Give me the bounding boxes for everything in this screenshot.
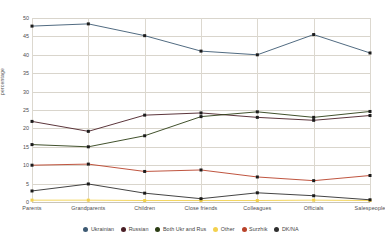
series-line xyxy=(32,164,370,181)
series-ukrainian xyxy=(31,22,372,56)
data-point xyxy=(143,34,146,37)
data-point xyxy=(256,116,259,119)
x-tick-label: Children xyxy=(134,205,155,211)
data-point xyxy=(312,199,315,202)
grid-line xyxy=(32,202,370,203)
legend-item[interactable]: Surzhik xyxy=(242,226,268,232)
data-point xyxy=(369,114,372,117)
data-point xyxy=(200,50,203,53)
data-point xyxy=(87,163,90,166)
data-point xyxy=(143,199,146,202)
y-tick-label: 15 xyxy=(23,144,29,150)
legend-item[interactable]: DK/NA xyxy=(274,226,298,232)
data-point xyxy=(256,53,259,56)
data-point xyxy=(200,168,203,171)
x-tick-label: Close friends xyxy=(185,205,218,211)
data-point xyxy=(312,119,315,122)
data-point xyxy=(31,25,34,28)
data-point xyxy=(369,174,372,177)
series-russian xyxy=(31,111,372,132)
x-tick-label: Grandparents xyxy=(71,205,105,211)
data-point xyxy=(256,110,259,113)
legend-label: Other xyxy=(221,226,235,232)
data-point xyxy=(87,199,90,202)
data-point xyxy=(369,51,372,54)
chart-legend: UkrainianRussianBoth Ukr and RusOtherSur… xyxy=(0,226,382,232)
data-point xyxy=(369,110,372,113)
data-point xyxy=(369,198,372,201)
legend-label: Surzhik xyxy=(249,226,267,232)
y-tick-label: 45 xyxy=(23,33,29,39)
data-point xyxy=(256,191,259,194)
y-tick-label: 35 xyxy=(23,70,29,76)
y-tick-label: 30 xyxy=(23,89,29,95)
data-point xyxy=(31,120,34,123)
series-both-ukr-and-rus xyxy=(31,110,372,148)
y-tick-label: 5 xyxy=(26,181,29,187)
y-tick-label: 40 xyxy=(23,52,29,58)
legend-item[interactable]: Russian xyxy=(121,226,148,232)
legend-item[interactable]: Other xyxy=(213,226,234,232)
data-point xyxy=(143,192,146,195)
legend-swatch-icon xyxy=(242,227,247,232)
y-tick-label: 50 xyxy=(23,15,29,21)
y-tick-label: 10 xyxy=(23,162,29,168)
legend-label: Russian xyxy=(129,226,149,232)
legend-item[interactable]: Both Ukr and Rus xyxy=(155,226,206,232)
x-tick-label: Parents xyxy=(22,205,41,211)
x-tick-label: Officials xyxy=(304,205,324,211)
legend-swatch-icon xyxy=(121,227,126,232)
y-tick-label: 20 xyxy=(23,125,29,131)
legend-swatch-icon xyxy=(213,227,218,232)
data-point xyxy=(87,145,90,148)
legend-label: Ukrainian xyxy=(91,226,114,232)
data-point xyxy=(256,199,259,202)
data-point xyxy=(200,115,203,118)
data-point xyxy=(31,199,34,202)
legend-swatch-icon xyxy=(83,227,88,232)
data-point xyxy=(31,189,34,192)
data-point xyxy=(87,130,90,133)
data-point xyxy=(31,143,34,146)
data-point xyxy=(87,182,90,185)
data-point xyxy=(87,22,90,25)
y-tick-label: 25 xyxy=(23,107,29,113)
data-point xyxy=(143,114,146,117)
legend-label: DK/NA xyxy=(282,226,299,232)
legend-swatch-icon xyxy=(155,227,160,232)
legend-item[interactable]: Ukrainian xyxy=(83,226,114,232)
data-point xyxy=(31,164,34,167)
x-tick-label: Salespeople xyxy=(355,205,385,211)
data-point xyxy=(200,111,203,114)
legend-swatch-icon xyxy=(274,227,279,232)
data-point xyxy=(143,170,146,173)
data-point xyxy=(312,33,315,36)
x-axis-ticks: ParentsGrandparentsChildrenClose friends… xyxy=(32,205,370,217)
legend-label: Both Ukr and Rus xyxy=(163,226,206,232)
x-tick-label: Colleagues xyxy=(243,205,271,211)
data-point xyxy=(312,179,315,182)
data-point xyxy=(256,175,259,178)
series-dk-na xyxy=(31,182,372,201)
y-axis-ticks: 05101520253035404550 xyxy=(0,18,32,202)
data-point xyxy=(312,194,315,197)
series-container xyxy=(32,18,370,202)
series-surzhik xyxy=(31,163,372,183)
plot-area xyxy=(32,18,370,202)
data-point xyxy=(143,134,146,137)
data-point xyxy=(200,197,203,200)
data-point xyxy=(312,116,315,119)
